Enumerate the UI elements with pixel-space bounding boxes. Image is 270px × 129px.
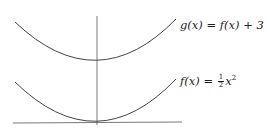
label-f-exponent: 2 (232, 74, 236, 82)
label-g-rhs: f(x) + 3 (220, 18, 264, 32)
fraction-one-half: 1 2 (218, 74, 224, 89)
label-g-lhs: g(x) (180, 18, 203, 32)
label-g-eq: = (206, 18, 216, 32)
label-f: f(x) = 1 2 x2 (180, 74, 236, 89)
fraction-denominator: 2 (218, 82, 224, 89)
x-axis (13, 122, 182, 123)
curve-g (15, 19, 176, 60)
label-f-lhs: f(x) (180, 74, 200, 88)
label-g: g(x) = f(x) + 3 (180, 20, 264, 32)
label-f-eq: = (203, 74, 213, 88)
curve-f (15, 79, 176, 121)
